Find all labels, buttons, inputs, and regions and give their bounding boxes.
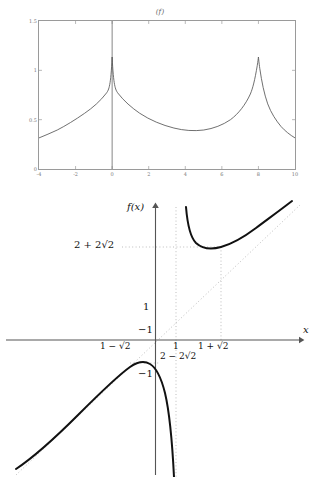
x-tick-label-one-plus-sqrt2: 1 + √2 [198,342,228,351]
top-xtick-label: 2 [142,171,156,177]
top-plot-area: 1.5 1 0.5 0 -4 -2 0 2 4 6 8 10 [38,20,296,170]
x-tick-label-one: 1 [173,342,179,351]
top-axis-ticks [39,21,295,169]
top-xtick-label: 8 [251,171,265,177]
x-tick-label-one-minus-sqrt2: 1 − √2 [100,342,130,351]
top-ytick-label: 0.5 [21,117,37,123]
y-tick-label-one: 1 [143,302,149,312]
top-xtick-label: 10 [288,171,302,177]
curve-left-branch [16,362,174,477]
point-label-2minus2sqrt2: 2 − 2√2 [160,352,196,361]
y-axis-label: f(x) [127,202,144,212]
y-tick-label-2plus2sqrt2: 2 + 2√2 [74,240,114,250]
point-label-minus-one: −1 [138,369,153,379]
top-xtick-label: 0 [105,171,119,177]
top-xtick-label: 6 [215,171,229,177]
bottom-figure: f(x) x 2 + 2√2 1 −1 1 − √2 1 1 + √2 −1 2… [0,185,320,477]
y-tick-label-minus-one: −1 [138,325,153,335]
top-figure-title: (f) [0,8,320,16]
top-ytick-label: 1 [21,67,37,73]
top-plot-curve [39,57,295,138]
top-xtick-label: -2 [69,171,83,177]
top-xtick-label: 4 [178,171,192,177]
x-axis-label: x [303,325,309,335]
top-xtick-label: -4 [32,171,46,177]
top-plot-svg [39,21,295,169]
top-ytick-label: 1.5 [21,18,37,24]
bottom-graph-svg [0,185,320,477]
top-figure: (f) [0,0,320,185]
curve-right-branch [186,201,292,248]
